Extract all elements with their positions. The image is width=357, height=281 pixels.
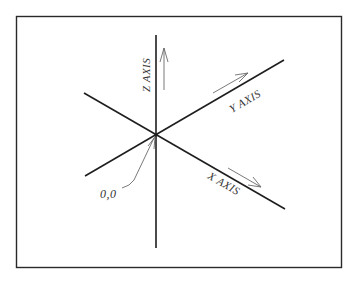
diagram-frame <box>17 17 342 268</box>
origin-point <box>154 133 157 136</box>
y-axis-label: Y AXIS <box>227 87 263 115</box>
z-direction-arrow-icon <box>160 48 168 90</box>
z-axis-label: Z AXIS <box>140 58 152 92</box>
y-axis-line <box>85 60 284 176</box>
y-direction-arrow-icon <box>213 73 248 93</box>
axes-diagram: Z AXIS Y AXIS X AXIS 0,0 <box>0 0 357 281</box>
origin-label: 0,0 <box>100 187 117 201</box>
